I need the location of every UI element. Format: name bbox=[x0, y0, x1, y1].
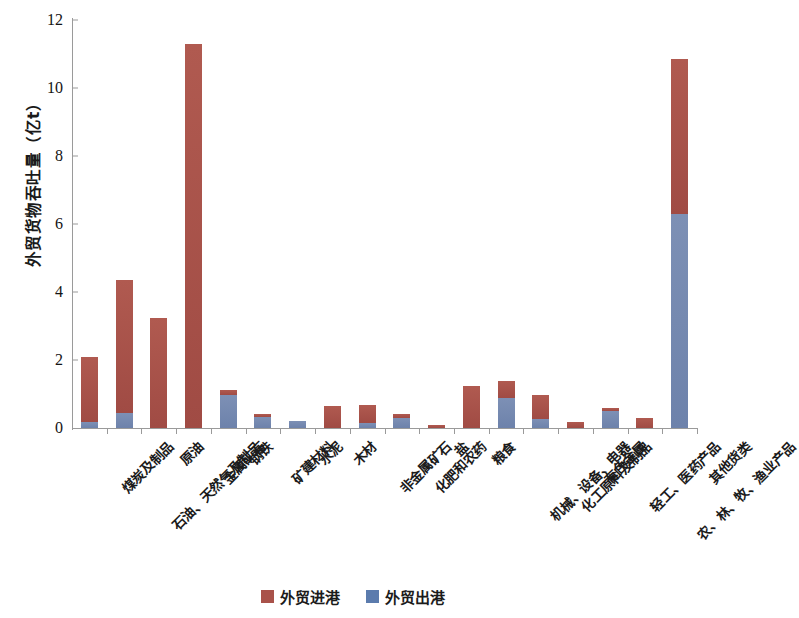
bar-segment-import bbox=[81, 357, 98, 422]
x-axis-tick-mark bbox=[315, 428, 316, 434]
bar-stack bbox=[498, 381, 515, 428]
bar-stack bbox=[220, 390, 237, 428]
legend-item[interactable]: 外贸进港 bbox=[261, 586, 340, 607]
bar-segment-export bbox=[671, 214, 688, 428]
x-axis-tick-mark bbox=[558, 428, 559, 434]
legend-item[interactable]: 外贸出港 bbox=[366, 586, 445, 607]
bar-stack bbox=[254, 414, 271, 428]
bar-stack bbox=[324, 406, 341, 428]
bar-segment-import bbox=[185, 44, 202, 428]
bar-segment-import bbox=[463, 386, 480, 428]
bar-segment-import bbox=[324, 406, 341, 428]
bar-stack bbox=[602, 408, 619, 428]
bar-stack bbox=[150, 318, 167, 428]
bar-stack bbox=[81, 357, 98, 428]
x-axis-tick-mark bbox=[107, 428, 108, 434]
bar-stack bbox=[116, 280, 133, 428]
y-axis-tick-mark bbox=[72, 88, 78, 89]
bar-stack bbox=[671, 59, 688, 428]
legend-label: 外贸进港 bbox=[280, 586, 340, 607]
x-axis-tick-mark bbox=[662, 428, 663, 434]
bar-segment-export bbox=[498, 398, 515, 428]
x-axis-tick-mark bbox=[280, 428, 281, 434]
bar-segment-import bbox=[359, 405, 376, 423]
y-axis-tick-mark bbox=[72, 292, 78, 293]
bar-segment-import bbox=[498, 381, 515, 398]
bar-segment-export bbox=[220, 395, 237, 428]
x-axis-category-label: 木材 bbox=[348, 436, 381, 469]
x-axis-tick-mark bbox=[176, 428, 177, 434]
y-axis-tick-label: 2 bbox=[55, 351, 63, 369]
x-axis-tick-mark bbox=[454, 428, 455, 434]
bar-segment-export bbox=[602, 411, 619, 428]
bar-stack bbox=[393, 414, 410, 428]
bar-segment-export bbox=[532, 419, 549, 428]
y-axis-tick-label: 8 bbox=[55, 147, 63, 165]
x-axis-category-label: 粮食 bbox=[487, 436, 520, 469]
legend-label: 外贸出港 bbox=[385, 586, 445, 607]
bar-stack bbox=[567, 422, 584, 428]
y-axis-tick-label: 6 bbox=[55, 215, 63, 233]
bar-stack bbox=[532, 395, 549, 428]
x-axis-category-label: 原油 bbox=[175, 436, 208, 469]
bars-layer bbox=[72, 20, 697, 428]
bar-segment-export bbox=[289, 421, 306, 428]
y-axis-tick-label: 12 bbox=[47, 11, 63, 29]
bar-segment-export bbox=[393, 418, 410, 428]
x-axis-tick-mark bbox=[246, 428, 247, 434]
bar-segment-import bbox=[150, 318, 167, 428]
y-axis-tick-mark bbox=[72, 156, 78, 157]
bar-segment-export bbox=[254, 417, 271, 428]
y-axis-tick-label: 4 bbox=[55, 283, 63, 301]
x-axis-tick-mark bbox=[141, 428, 142, 434]
bar-stack bbox=[463, 386, 480, 428]
x-axis-tick-mark bbox=[350, 428, 351, 434]
bar-segment-import bbox=[636, 418, 653, 428]
y-axis-tick-mark bbox=[72, 20, 78, 21]
bar-segment-export bbox=[116, 413, 133, 428]
bar-segment-import bbox=[428, 425, 445, 428]
y-axis-tick-mark bbox=[72, 360, 78, 361]
bar-stack bbox=[359, 405, 376, 428]
legend-swatch-icon bbox=[261, 590, 274, 603]
chart-legend: 外贸进港外贸出港 bbox=[0, 586, 706, 607]
bar-stack bbox=[428, 425, 445, 428]
x-axis-tick-mark bbox=[523, 428, 524, 434]
bar-segment-export bbox=[81, 422, 98, 428]
bar-stack bbox=[185, 44, 202, 428]
bar-segment-import bbox=[116, 280, 133, 413]
x-axis-tick-mark bbox=[419, 428, 420, 434]
x-axis-tick-mark bbox=[697, 428, 698, 434]
y-axis-tick-label: 0 bbox=[55, 419, 63, 437]
x-axis-tick-mark bbox=[211, 428, 212, 434]
x-axis-tick-mark bbox=[385, 428, 386, 434]
y-axis-tick-mark bbox=[72, 224, 78, 225]
bar-stack bbox=[289, 421, 306, 428]
bar-stack bbox=[636, 418, 653, 428]
x-axis-category-label: 煤炭及制品 bbox=[117, 436, 178, 497]
x-axis-tick-mark bbox=[489, 428, 490, 434]
bar-segment-import bbox=[532, 395, 549, 419]
x-axis-tick-mark bbox=[593, 428, 594, 434]
bar-segment-import bbox=[567, 422, 584, 428]
legend-swatch-icon bbox=[366, 590, 379, 603]
y-axis-tick-label: 10 bbox=[47, 79, 63, 97]
x-axis-tick-mark bbox=[628, 428, 629, 434]
bar-segment-export bbox=[359, 423, 376, 428]
y-axis-title: 外贸货物吞吐量（亿t） bbox=[21, 71, 43, 291]
bar-segment-import bbox=[671, 59, 688, 214]
